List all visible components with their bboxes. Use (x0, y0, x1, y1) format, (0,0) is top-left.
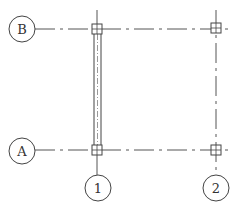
grid-bubble-a: A (9, 138, 35, 164)
grid-bubble-1: 1 (85, 175, 111, 201)
grid-bubble-2: 2 (203, 175, 229, 201)
grid-plan-canvas: B A 1 2 (0, 0, 243, 214)
grid-bubble-b: B (9, 16, 35, 42)
grid-label-1: 1 (94, 181, 102, 196)
grid-label-2: 2 (212, 181, 220, 196)
grid-label-a: A (16, 144, 27, 159)
grid-label-b: B (17, 22, 27, 37)
wall-grid-1 (94, 34, 101, 145)
